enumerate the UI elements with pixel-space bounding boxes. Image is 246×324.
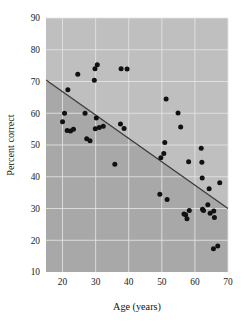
svg-text:30: 30	[31, 204, 41, 214]
svg-text:40: 40	[31, 172, 41, 182]
svg-text:60: 60	[31, 109, 41, 119]
x-axis-title: Age (years)	[113, 301, 161, 313]
svg-text:60: 60	[190, 277, 200, 287]
svg-text:20: 20	[31, 236, 41, 246]
svg-text:20: 20	[58, 277, 68, 287]
svg-text:50: 50	[31, 140, 41, 150]
svg-text:80: 80	[31, 45, 41, 55]
x-tick-labels: 203040506070	[58, 277, 233, 287]
y-tick-labels: 102030405060708090	[31, 13, 41, 277]
svg-text:70: 70	[31, 77, 41, 87]
svg-text:90: 90	[31, 13, 41, 23]
svg-text:10: 10	[31, 267, 41, 277]
svg-text:50: 50	[157, 277, 167, 287]
svg-text:70: 70	[223, 277, 233, 287]
svg-text:40: 40	[124, 277, 134, 287]
svg-text:30: 30	[91, 277, 101, 287]
scatter-plot-figure: 203040506070 102030405060708090 Age (yea…	[0, 0, 246, 324]
y-axis-title: Percent correct	[5, 114, 16, 176]
chart-canvas: 203040506070 102030405060708090 Age (yea…	[0, 0, 246, 324]
